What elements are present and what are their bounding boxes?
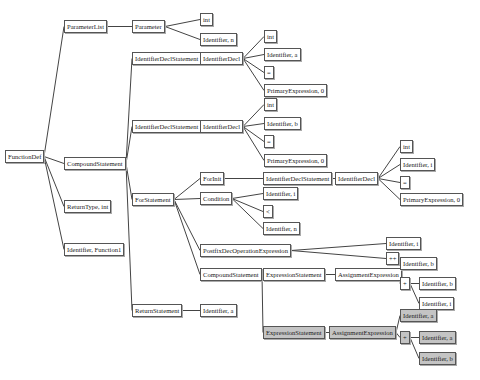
tree-edge: [165, 20, 200, 27]
tree-node-a2b[interactable]: Identifier, b: [419, 352, 456, 365]
tree-edge: [44, 157, 64, 207]
tree-node-d2p[interactable]: PrimaryExpression, 0: [264, 154, 327, 167]
tree-node-cond[interactable]: Condition: [200, 192, 232, 205]
tree-edge: [410, 284, 419, 304]
tree-node-ra[interactable]: Identifier, a: [200, 304, 237, 317]
tree-node-d1p[interactable]: PrimaryExpression, 0: [264, 84, 327, 97]
tree-edge: [174, 179, 200, 200]
tree-node-ids1[interactable]: IdentifierDeclStatement: [132, 52, 201, 65]
tree-node-d1a[interactable]: Identifier, a: [264, 48, 301, 61]
tree-edge: [243, 105, 264, 127]
tree-node-pint[interactable]: int: [200, 13, 213, 26]
tree-node-fs[interactable]: ForStatement: [132, 193, 174, 206]
tree-node-ae2[interactable]: AssignmentExpression: [329, 326, 396, 339]
tree-edge: [44, 157, 64, 250]
tree-edge: [243, 59, 264, 73]
tree-node-ids3[interactable]: IdentifierDeclStatement: [263, 172, 332, 185]
tree-node-idd2[interactable]: IdentifierDecl: [200, 120, 243, 133]
tree-edge: [174, 200, 200, 251]
tree-node-idd3[interactable]: IdentifierDecl: [335, 172, 378, 185]
tree-edge: [165, 27, 200, 40]
tree-edge: [243, 127, 264, 161]
tree-node-fd[interactable]: FunctionDef: [5, 150, 44, 163]
tree-node-pl[interactable]: ParameterList: [64, 20, 107, 33]
tree-edge: [174, 199, 200, 200]
tree-node-ci[interactable]: Identifier, i: [263, 187, 298, 200]
tree-edge: [291, 251, 386, 259]
tree-edge: [243, 59, 264, 91]
tree-node-ae1[interactable]: AssignmentExpression: [335, 268, 402, 281]
tree-node-es1[interactable]: ExpressionStatement: [263, 268, 325, 281]
tree-node-rt[interactable]: ReturnType, int: [64, 200, 111, 213]
tree-node-fi[interactable]: ForInit: [200, 172, 224, 185]
tree-node-d3p[interactable]: PrimaryExpression, 0: [400, 193, 463, 206]
tree-edge: [126, 164, 132, 311]
tree-node-a1plus[interactable]: +: [400, 277, 410, 290]
tree-node-par[interactable]: Parameter: [132, 20, 165, 33]
tree-edge: [291, 244, 386, 251]
tree-node-d3i[interactable]: Identifier, i: [400, 158, 435, 171]
tree-edge: [44, 157, 64, 164]
tree-node-d3int[interactable]: int: [400, 140, 413, 153]
tree-edge: [174, 200, 200, 275]
tree-node-d2eq[interactable]: =: [264, 135, 274, 148]
tree-node-d2int[interactable]: int: [264, 98, 277, 111]
tree-edge: [243, 124, 264, 127]
tree-node-cn[interactable]: Identifier, n: [263, 222, 300, 235]
tree-edge: [232, 199, 263, 229]
tree-node-pn[interactable]: Identifier, n: [200, 33, 237, 46]
tree-edge: [262, 275, 263, 333]
tree-node-a2a[interactable]: Identifier, a: [400, 309, 437, 322]
tree-node-a1b2[interactable]: Identifier, b: [419, 277, 456, 290]
tree-node-rs[interactable]: ReturnStatement: [132, 304, 182, 317]
tree-node-idf[interactable]: Identifier, Function1: [64, 243, 124, 256]
tree-node-pdo[interactable]: PostfixDecOperationExpression: [200, 244, 291, 257]
tree-node-clt[interactable]: <: [263, 205, 273, 218]
tree-edge: [410, 338, 419, 359]
tree-node-d3eq[interactable]: =: [400, 176, 410, 189]
tree-node-cs[interactable]: CompoundStatement: [64, 157, 126, 170]
tree-node-a2plus[interactable]: +: [400, 331, 410, 344]
tree-node-pdpp[interactable]: ++: [386, 252, 399, 265]
tree-node-a1b[interactable]: Identifier, b: [400, 257, 437, 270]
tree-node-ids2[interactable]: IdentifierDeclStatement: [132, 120, 201, 133]
tree-node-d1eq[interactable]: =: [264, 66, 274, 79]
tree-edge: [232, 194, 263, 199]
tree-node-es2[interactable]: ExpressionStatement: [263, 326, 325, 339]
tree-edge: [232, 199, 263, 212]
tree-edge: [44, 27, 64, 157]
tree-node-a2a2[interactable]: Identifier, a: [419, 331, 456, 344]
tree-node-idd1[interactable]: IdentifierDecl: [200, 52, 243, 65]
tree-node-pdi[interactable]: Identifier, i: [386, 237, 421, 250]
tree-edge: [378, 147, 400, 179]
tree-node-d2b[interactable]: Identifier, b: [264, 117, 301, 130]
tree-node-d1int[interactable]: int: [264, 30, 277, 43]
tree-edge: [243, 127, 264, 142]
tree-edge: [378, 165, 400, 179]
tree-node-cs2[interactable]: CompoundStatement: [200, 268, 262, 281]
